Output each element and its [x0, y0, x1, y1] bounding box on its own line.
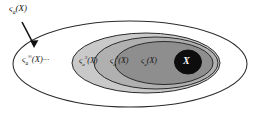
outer-annotation-label: ςa(X) [9, 3, 27, 13]
region-core-label: X [183, 55, 190, 66]
region-2-label: ςa2(X) [110, 56, 128, 65]
region-3-label: ςa3(X) [79, 56, 97, 65]
region-outer-label: ςa∞(X)··· [22, 54, 49, 64]
closure-operator-diagram: ςa(X) ςa∞(X)··· ςa3(X) ςa2(X) ςa(X) X [0, 0, 257, 117]
region-1-label: ςa(X) [141, 56, 157, 65]
